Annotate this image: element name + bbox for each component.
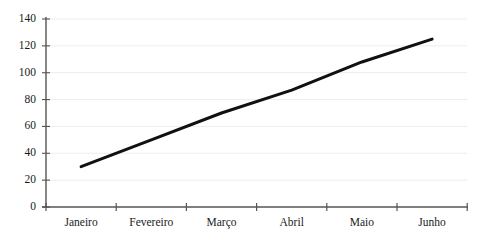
x-axis-tick-label: Maio	[322, 217, 402, 229]
chart-plot-area	[0, 0, 479, 243]
data-series-line	[81, 39, 432, 167]
y-axis-tick-label: 20	[2, 174, 36, 186]
y-axis-tick-label: 100	[2, 67, 36, 79]
x-axis-tick-label: Janeiro	[41, 217, 121, 229]
line-chart: 020406080100120140 JaneiroFevereiroMarço…	[0, 0, 479, 243]
y-axis-tick-label: 140	[2, 13, 36, 25]
x-axis-tick-label: Abril	[252, 217, 332, 229]
y-axis-tick-label: 60	[2, 120, 36, 132]
y-axis-tick-label: 80	[2, 94, 36, 106]
x-axis-tick-label: Março	[182, 217, 262, 229]
x-axis-tick-label: Fevereiro	[111, 217, 191, 229]
y-axis-tick-label: 120	[2, 40, 36, 52]
y-axis-tick-label: 0	[2, 201, 36, 213]
x-axis-tick-label: Junho	[392, 217, 472, 229]
y-axis-tick-label: 40	[2, 147, 36, 159]
